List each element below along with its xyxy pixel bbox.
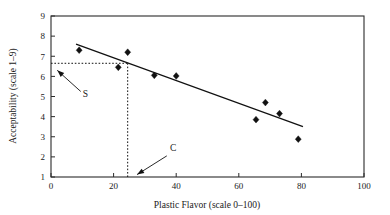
x-tick-label-80: 80: [297, 181, 307, 191]
regression-line-path: [76, 44, 303, 127]
y-axis-title: Acceptability (scale 1–9): [8, 48, 19, 144]
y-tick-label-5: 5: [41, 92, 46, 102]
data-point-8: [295, 136, 301, 143]
y-axis-ticks: [51, 16, 55, 177]
data-point-1: [115, 64, 121, 71]
data-point-markers: [76, 47, 301, 143]
x-tick-label-0: 0: [49, 181, 54, 191]
x-tick-label-20: 20: [109, 181, 119, 191]
y-tick-label-7: 7: [41, 52, 46, 62]
scatter-plot-figure: 020406080100 123456789 SC Plastic Flavor…: [0, 0, 390, 215]
plot-canvas: 020406080100 123456789 SC Plastic Flavor…: [0, 0, 390, 215]
data-point-7: [276, 110, 282, 117]
annotation-label-C: C: [170, 143, 176, 153]
plot-frame: [51, 16, 364, 177]
y-tick-label-9: 9: [41, 11, 46, 21]
data-point-2: [125, 49, 131, 56]
regression-line: [76, 44, 303, 127]
x-axis-tick-labels: 020406080100: [49, 181, 372, 191]
annotation-arrowhead-C: [137, 169, 144, 175]
reference-lines: [51, 63, 128, 177]
data-point-4: [173, 73, 179, 80]
y-tick-label-1: 1: [41, 172, 46, 182]
y-tick-label-6: 6: [41, 72, 46, 82]
x-axis-title: Plastic Flavor (scale 0–100): [154, 200, 260, 211]
data-point-5: [253, 116, 259, 123]
x-tick-label-60: 60: [234, 181, 244, 191]
annotation-label-S: S: [83, 89, 88, 99]
x-axis-ticks: [51, 173, 364, 177]
y-tick-label-8: 8: [41, 31, 46, 41]
y-tick-label-4: 4: [41, 112, 46, 122]
y-tick-label-3: 3: [41, 132, 46, 142]
x-tick-label-40: 40: [172, 181, 182, 191]
data-point-6: [262, 99, 268, 106]
x-tick-label-100: 100: [357, 181, 371, 191]
data-point-0: [76, 47, 82, 54]
annotation-arrows: SC: [57, 70, 176, 174]
y-tick-label-2: 2: [41, 152, 46, 162]
y-axis-tick-labels: 123456789: [41, 11, 46, 182]
